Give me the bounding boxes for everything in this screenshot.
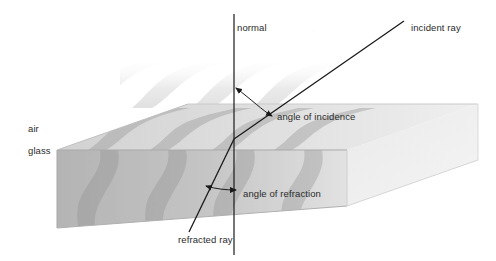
label-glass: glass bbox=[28, 145, 51, 156]
label-angle-of-incidence: angle of incidence bbox=[277, 111, 355, 122]
label-refracted-ray: refracted ray bbox=[178, 234, 233, 245]
label-normal: normal bbox=[237, 22, 267, 33]
wavefronts-in-air bbox=[72, 58, 360, 108]
refraction-diagram-svg bbox=[0, 0, 496, 261]
label-angle-of-refraction: angle of refraction bbox=[243, 188, 321, 199]
diagram-canvas: normal incident ray angle of incidence a… bbox=[0, 0, 496, 261]
label-air: air bbox=[28, 123, 39, 134]
label-incident-ray: incident ray bbox=[411, 22, 461, 33]
